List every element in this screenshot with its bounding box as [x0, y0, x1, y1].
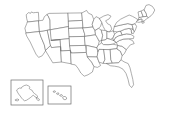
state-WA[interactable] [27, 12, 39, 22]
state-HI-oahu[interactable] [57, 93, 59, 95]
us-map-svg[interactable] [0, 0, 175, 114]
state-HI-kauai[interactable] [53, 91, 55, 93]
inset-hawaii[interactable] [48, 86, 71, 104]
state-OR[interactable] [25, 21, 40, 33]
state-SD[interactable] [69, 20, 83, 28]
state-HI-maui[interactable] [60, 95, 63, 97]
inset-hawaii-frame [48, 86, 71, 104]
us-map-container: United States Blank Outline Map [0, 0, 175, 114]
state-RI[interactable] [142, 21, 144, 23]
state-NE[interactable] [69, 28, 85, 37]
state-ND[interactable] [68, 13, 82, 21]
state-KS[interactable] [69, 36, 85, 45]
inset-alaska[interactable] [11, 80, 43, 105]
state-OK[interactable] [70, 45, 86, 53]
state-HI-bigisland[interactable] [63, 96, 67, 99]
